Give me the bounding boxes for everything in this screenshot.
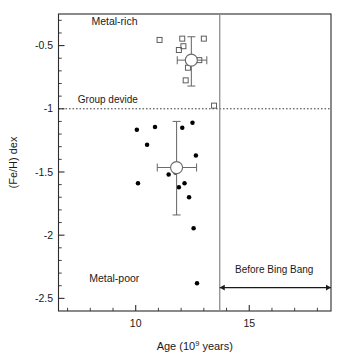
before-big-bang-label: Before Bing Bang — [235, 264, 313, 275]
y-axis-title: (Fe/H) dex — [7, 136, 19, 188]
scatter-plot: -0.5-1-1.5-2-2.51015 Metal-richMetal-poo… — [0, 0, 345, 361]
data-point-filled-circle-1-9 — [177, 185, 182, 190]
y-tick-label-0: -0.5 — [35, 39, 53, 51]
data-point-filled-circle-1-5 — [194, 153, 199, 158]
x-axis-title-tail: years) — [199, 340, 233, 352]
data-point-filled-circle-1-0 — [135, 127, 140, 132]
group-divide-label: Group devide — [78, 94, 138, 105]
plot-background — [0, 0, 345, 361]
x-tick-label-0: 10 — [130, 317, 142, 329]
data-point-filled-circle-1-2 — [190, 120, 195, 125]
data-point-filled-circle-1-3 — [180, 125, 185, 129]
metal-poor-label: Metal-poor — [89, 272, 140, 284]
data-point-filled-circle-1-8 — [182, 181, 187, 186]
data-point-filled-circle-1-11 — [187, 195, 192, 200]
x-tick-label-1: 15 — [243, 317, 255, 329]
y-tick-label-4: -2.5 — [35, 292, 53, 304]
metal-rich-label: Metal-rich — [91, 15, 137, 27]
y-tick-label-3: -2 — [44, 229, 53, 241]
y-tick-label-1: -1 — [44, 102, 53, 114]
x-axis-title-base: Age (10 — [157, 340, 196, 352]
y-tick-label-2: -1.5 — [35, 166, 53, 178]
data-point-filled-circle-1-12 — [191, 226, 196, 231]
data-point-filled-circle-1-6 — [166, 172, 171, 177]
figure-container: -0.5-1-1.5-2-2.51015 Metal-richMetal-poo… — [0, 0, 345, 361]
data-point-filled-circle-1-13 — [195, 281, 200, 286]
x-axis-title: Age (109 years) — [157, 339, 233, 352]
data-point-filled-circle-1-10 — [136, 181, 141, 186]
data-point-filled-circle-1-4 — [145, 143, 150, 148]
data-point-filled-circle-1-1 — [153, 125, 158, 130]
